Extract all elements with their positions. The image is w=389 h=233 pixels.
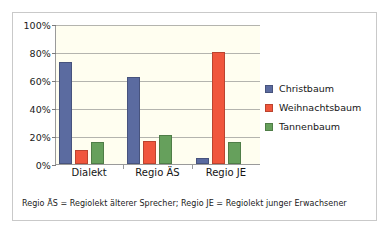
legend-item: Weihnachtsbaum xyxy=(265,98,377,117)
bar xyxy=(159,135,172,164)
chart-footnote: Regio ÄS = Regiolekt älterer Sprecher; R… xyxy=(22,199,370,208)
bar xyxy=(228,142,241,164)
y-tick-label: 0% xyxy=(36,160,51,171)
x-axis-divider xyxy=(192,165,193,169)
bar xyxy=(59,62,72,164)
x-tick-label: Regio ÄS xyxy=(123,167,191,178)
legend-swatch-icon xyxy=(265,85,273,93)
bar-group xyxy=(56,25,124,164)
bar-group xyxy=(124,25,192,164)
legend-swatch-icon xyxy=(265,123,273,131)
y-tick-label: 60% xyxy=(30,76,51,87)
bar-group xyxy=(193,25,261,164)
legend-label: Weihnachtsbaum xyxy=(279,102,361,113)
y-tickmark xyxy=(52,165,56,166)
plot-area xyxy=(55,25,260,165)
x-axis-divider xyxy=(123,165,124,169)
x-axis: DialektRegio ÄSRegio JE xyxy=(55,167,260,183)
x-tick-label: Dialekt xyxy=(55,167,123,178)
y-tick-label: 80% xyxy=(30,48,51,59)
bar xyxy=(91,142,104,164)
legend-item: Christbaum xyxy=(265,79,377,98)
legend-swatch-icon xyxy=(265,104,273,112)
bar xyxy=(75,150,88,164)
legend-item: Tannenbaum xyxy=(265,117,377,136)
y-tick-label: 100% xyxy=(23,20,51,31)
legend-label: Christbaum xyxy=(279,83,334,94)
chart-figure: 0%20%40%60%80%100% DialektRegio ÄSRegio … xyxy=(12,12,377,221)
bar xyxy=(143,141,156,164)
bar xyxy=(127,77,140,164)
x-tick-label: Regio JE xyxy=(192,167,260,178)
y-tick-label: 40% xyxy=(30,104,51,115)
bar-series-container xyxy=(56,25,260,164)
bar xyxy=(212,52,225,164)
y-axis: 0%20%40%60%80%100% xyxy=(13,25,54,165)
chart-legend: ChristbaumWeihnachtsbaumTannenbaum xyxy=(265,79,377,136)
bar xyxy=(196,158,209,164)
legend-label: Tannenbaum xyxy=(279,121,340,132)
y-tick-label: 20% xyxy=(30,132,51,143)
chart-plot-container: 0%20%40%60%80%100% DialektRegio ÄSRegio … xyxy=(13,13,378,191)
